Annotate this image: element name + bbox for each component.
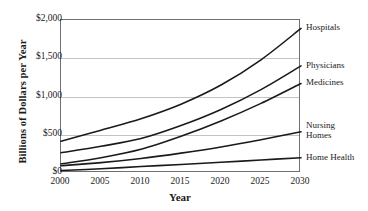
- y-axis-tick-label: $1,500: [36, 52, 62, 62]
- series-line-hospitals: [61, 28, 301, 141]
- y-axis-tick-label: $500: [43, 129, 62, 139]
- series-line-medicines: [61, 84, 301, 164]
- legend-label-physicians: Physicians: [306, 60, 345, 71]
- plot-area: [60, 19, 300, 172]
- x-axis-tick-label: 2015: [158, 176, 202, 186]
- series-lines: [61, 20, 301, 173]
- x-axis-tick-label: 2030: [278, 176, 322, 186]
- x-axis-tick-label: 2005: [78, 176, 122, 186]
- x-axis-tick-label: 2020: [198, 176, 242, 186]
- x-axis-tick-label: 2025: [238, 176, 282, 186]
- x-axis-title: Year: [60, 191, 300, 203]
- y-axis-tick-label: $1,000: [36, 91, 62, 101]
- y-axis-title: Billions of Dollars per Year: [17, 17, 28, 187]
- legend-label-hospitals: Hospitals: [306, 22, 340, 33]
- legend-label-medicines: Medicines: [306, 77, 344, 88]
- x-axis-tick-label: 2000: [38, 176, 82, 186]
- series-line-home-health: [61, 158, 301, 171]
- chart-root: Billions of Dollars per Year $0$500$1,00…: [0, 0, 368, 211]
- legend-label-home-health: Home Health: [306, 152, 354, 163]
- legend-label-nursing-homes: Nursing Homes: [306, 120, 335, 141]
- y-axis-tick-label: $2,000: [36, 14, 62, 24]
- x-axis-tick-label: 2010: [118, 176, 162, 186]
